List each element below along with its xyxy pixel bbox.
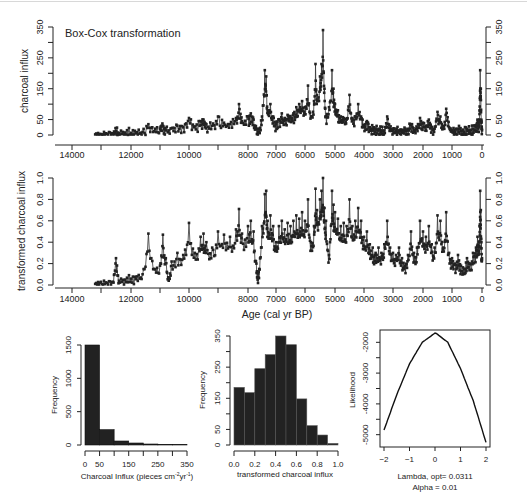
data-point <box>443 247 446 250</box>
data-point <box>354 220 357 223</box>
data-point <box>303 236 306 239</box>
data-series <box>94 29 483 137</box>
data-point <box>169 274 172 277</box>
data-point <box>221 243 224 246</box>
data-point <box>394 265 397 268</box>
data-point <box>161 130 164 133</box>
data-point <box>311 116 314 119</box>
data-point <box>474 261 477 264</box>
data-point <box>205 241 208 244</box>
y-tick-label: 0.6 <box>494 215 504 228</box>
data-point <box>240 116 243 119</box>
data-point <box>426 245 429 248</box>
data-point <box>436 111 439 114</box>
data-point <box>358 229 361 232</box>
data-point <box>357 207 360 210</box>
x-tick-label: 250 <box>151 460 165 469</box>
data-point <box>452 260 455 263</box>
data-point <box>214 254 217 257</box>
data-point <box>142 128 145 131</box>
data-point <box>233 247 236 250</box>
data-point <box>397 259 400 262</box>
data-point <box>349 220 352 223</box>
y-tick-label: 0.0 <box>494 279 504 292</box>
data-point <box>302 229 305 232</box>
data-point <box>261 225 264 228</box>
data-point <box>144 266 147 269</box>
data-point <box>479 216 482 219</box>
data-point <box>480 121 483 124</box>
data-point <box>346 117 349 120</box>
data-point <box>467 266 470 269</box>
data-point <box>245 246 248 249</box>
data-point <box>320 190 323 193</box>
data-point <box>322 59 325 62</box>
data-point <box>149 131 152 134</box>
data-point <box>216 123 219 126</box>
data-point <box>312 113 315 116</box>
data-point <box>441 241 444 244</box>
x-tick-label: 6000 <box>295 150 315 160</box>
data-point <box>117 274 120 277</box>
data-point <box>311 250 314 253</box>
data-point <box>110 283 113 286</box>
data-point <box>275 123 278 126</box>
data-point <box>347 228 350 231</box>
y-tick-label: 0.4 <box>35 236 45 249</box>
likelihood-panel: -5000-4000-3000-2000−2−1012 Likelihood L… <box>348 330 490 492</box>
data-point <box>262 227 265 230</box>
y-axis-right: 0.00.20.40.60.81.0 <box>486 172 504 292</box>
data-point <box>407 259 410 262</box>
data-point <box>323 100 326 103</box>
histogram-bar <box>114 441 129 445</box>
data-point <box>353 125 356 128</box>
data-series <box>94 177 483 286</box>
histogram-bar <box>328 443 338 445</box>
data-point <box>295 214 298 217</box>
x-tick-label: 1.0 <box>332 460 344 469</box>
data-point <box>445 112 448 115</box>
data-point <box>144 134 147 137</box>
data-point <box>348 218 351 221</box>
data-point <box>357 103 360 106</box>
data-point <box>350 112 353 115</box>
data-point <box>221 119 224 122</box>
x-tick-label: 2 <box>484 455 489 464</box>
data-point <box>321 56 324 59</box>
panel-title: Box-Cox transformation <box>65 27 181 39</box>
y-tick-label: 0.8 <box>494 193 504 206</box>
data-point <box>344 238 347 241</box>
data-point <box>236 122 239 125</box>
histogram-bar <box>158 444 173 445</box>
data-point <box>364 126 367 129</box>
data-point <box>415 261 418 264</box>
data-point <box>176 252 179 255</box>
y-tick-label: 0 <box>35 132 45 137</box>
data-point <box>317 229 320 232</box>
data-point <box>318 100 321 103</box>
data-point <box>363 236 366 239</box>
data-point <box>456 133 459 136</box>
data-point <box>264 211 267 214</box>
data-point <box>113 273 116 276</box>
y-axis-label: Likelihood <box>348 372 357 408</box>
data-point <box>285 238 288 241</box>
data-point <box>307 84 310 87</box>
data-point <box>262 232 265 235</box>
data-point <box>291 241 294 244</box>
data-point <box>304 220 307 223</box>
x-tick-label: 0.2 <box>249 460 261 469</box>
y-tick-label: 0.2 <box>35 257 45 270</box>
data-point <box>261 115 264 118</box>
data-point <box>439 232 442 235</box>
data-point <box>328 109 331 112</box>
x-tick-label: 350 <box>180 460 194 469</box>
data-point <box>162 247 165 250</box>
data-point <box>312 245 315 248</box>
data-point <box>250 220 253 223</box>
y-tick-label: 0 <box>64 442 73 447</box>
data-point <box>140 278 143 281</box>
data-point <box>332 91 335 94</box>
data-point <box>264 193 267 196</box>
data-point <box>281 112 284 115</box>
